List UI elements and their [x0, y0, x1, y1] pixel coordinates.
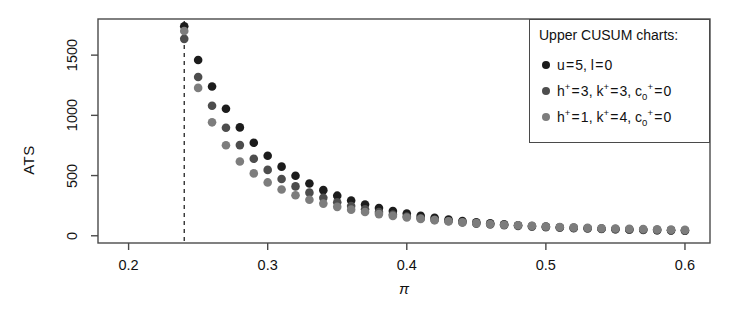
y-tick-label: 1000	[64, 99, 80, 131]
y-tick-label: 500	[64, 163, 80, 187]
x-tick-label: 0.2	[119, 257, 139, 273]
legend-label-1: h+ = 3, k+ = 3, c0+ = 0	[557, 83, 671, 99]
legend-label-0: u = 5, l = 0	[557, 57, 612, 73]
x-tick-label: 0.3	[258, 257, 278, 273]
legend-box: Upper CUSUM charts: u = 5, l = 0 h+ = 3,…	[529, 19, 710, 143]
legend-entry-1: h+ = 3, k+ = 3, c0+ = 0	[542, 83, 671, 99]
chart-figure: ATS π 0.20.30.40.50.6050010001500 Upper …	[0, 0, 748, 320]
legend-marker-icon-0	[542, 61, 550, 69]
x-tick-label: 0.4	[397, 257, 417, 273]
x-tick-label: 0.6	[675, 257, 695, 273]
y-axis-title: ATS	[20, 145, 37, 175]
legend-entry-2: h+ = 1, k+ = 4, c0+ = 0	[542, 109, 671, 125]
x-tick-label: 0.5	[536, 257, 556, 273]
legend-marker-icon-1	[542, 87, 550, 95]
legend-entry-0: u = 5, l = 0	[542, 57, 612, 73]
y-tick-label: 0	[64, 232, 80, 240]
legend-label-2: h+ = 1, k+ = 4, c0+ = 0	[557, 109, 671, 125]
y-tick-label: 1500	[64, 39, 80, 71]
legend-marker-icon-2	[542, 113, 550, 121]
legend-title: Upper CUSUM charts:	[539, 27, 678, 43]
x-axis-title: π	[399, 280, 409, 297]
